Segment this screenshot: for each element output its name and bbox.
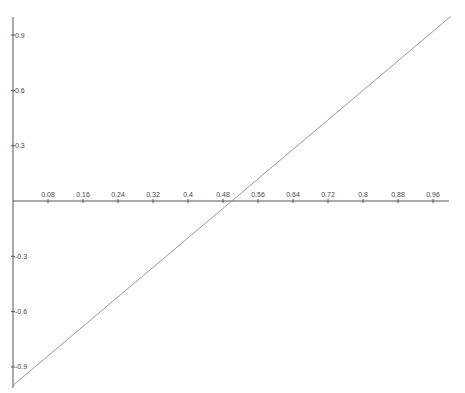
x-tick-label: 0.96 — [426, 191, 440, 198]
y-tick-label: -0.6 — [15, 308, 27, 315]
y-tick-label: -0.3 — [15, 253, 27, 260]
x-tick-label: 0.24 — [111, 191, 125, 198]
x-tick-label: 0.56 — [251, 191, 265, 198]
x-tick-label: 0.48 — [216, 191, 230, 198]
x-tick-label: 0.32 — [146, 191, 160, 198]
x-tick-label: 0.08 — [41, 191, 55, 198]
x-tick-label: 0.8 — [358, 191, 368, 198]
y-tick-label: 0.9 — [15, 32, 25, 39]
x-tick-label: 0.64 — [286, 191, 300, 198]
y-tick-label: -0.9 — [15, 363, 27, 370]
x-tick-label: 0.4 — [183, 191, 193, 198]
y-tick-label: 0.6 — [15, 87, 25, 94]
x-tick-label: 0.88 — [391, 191, 405, 198]
line-chart: 0.080.160.240.320.40.480.560.640.720.80.… — [0, 0, 465, 393]
y-tick-label: 0.3 — [15, 142, 25, 149]
x-tick-label: 0.16 — [76, 191, 90, 198]
x-tick-label: 0.72 — [321, 191, 335, 198]
